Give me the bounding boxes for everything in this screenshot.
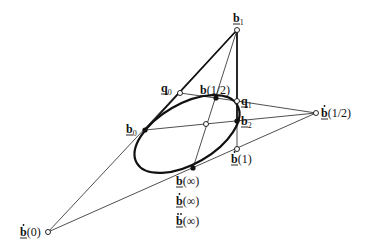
svg-text:b(1/2): b(1/2) bbox=[321, 106, 351, 120]
svg-text:b(0): b(0) bbox=[20, 225, 41, 239]
svg-text:b0: b0 bbox=[126, 122, 137, 138]
label-bddot-inf: b(∞) bbox=[176, 213, 199, 228]
point-b2 bbox=[234, 118, 239, 123]
label-q0: q0 bbox=[161, 81, 172, 97]
point-labels: b1q0q1b(1/2)b0b2b(1/2)b(1)b(∞)b(∞)b(∞)b(… bbox=[20, 11, 351, 239]
svg-text:q1: q1 bbox=[241, 94, 252, 110]
label-q1: q1 bbox=[241, 94, 252, 110]
point-q1 bbox=[235, 99, 240, 104]
point-bdot-half bbox=[314, 111, 319, 116]
point-center bbox=[204, 122, 209, 127]
label-b2: b2 bbox=[241, 114, 252, 130]
svg-text:b2: b2 bbox=[241, 114, 252, 130]
point-b0 bbox=[142, 127, 147, 132]
conic-ellipse bbox=[122, 79, 252, 189]
label-bdot-0: b(0) bbox=[20, 224, 41, 239]
label-bdot-inf: b(∞) bbox=[176, 193, 199, 208]
diagram-canvas: b1q0q1b(1/2)b0b2b(1/2)b(1)b(∞)b(∞)b(∞)b(… bbox=[0, 0, 373, 250]
point-b1 bbox=[235, 28, 240, 33]
svg-text:b(∞): b(∞) bbox=[176, 194, 199, 208]
svg-text:b(1): b(1) bbox=[231, 152, 252, 166]
label-b0: b0 bbox=[126, 122, 137, 138]
point-q0 bbox=[178, 91, 183, 96]
svg-text:b(∞): b(∞) bbox=[176, 214, 199, 228]
label-bdot-half: b(1/2) bbox=[321, 105, 351, 120]
point-bdot-0 bbox=[46, 230, 51, 235]
line-b0-b2 bbox=[145, 113, 316, 130]
svg-text:b1: b1 bbox=[233, 11, 244, 27]
conic-diagram: b1q0q1b(1/2)b0b2b(1/2)b(1)b(∞)b(∞)b(∞)b(… bbox=[0, 0, 373, 250]
point-b-inf bbox=[190, 165, 195, 170]
svg-text:b(∞): b(∞) bbox=[176, 174, 199, 188]
label-b-half: b(1/2) bbox=[200, 83, 230, 97]
svg-text:b(1/2): b(1/2) bbox=[200, 83, 230, 97]
label-bdot-1: b(1) bbox=[231, 151, 252, 166]
label-b-inf: b(∞) bbox=[176, 174, 199, 188]
label-b1: b1 bbox=[233, 11, 244, 27]
svg-text:q0: q0 bbox=[161, 81, 172, 97]
point-bdot-1 bbox=[235, 147, 240, 152]
control-edge-b0-b1 bbox=[145, 30, 237, 130]
